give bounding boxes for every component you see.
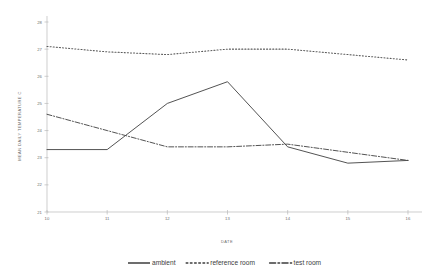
x-tick-label: 16 [406,216,411,221]
line-chart-svg: 2122232425262728 10111213141516 MEAN DAI… [0,0,428,280]
plot-series-group [47,46,408,163]
legend-label: reference room [210,259,255,266]
x-tick-label: 12 [165,216,170,221]
series-line-reference-room [47,46,408,60]
chart-legend: ambientreference roomtest room [128,259,322,266]
y-tick-label: 24 [37,128,42,133]
x-tick-label: 14 [285,216,290,221]
x-axis-title: DATE [221,239,233,244]
chart-figure: 2122232425262728 10111213141516 MEAN DAI… [0,0,428,280]
y-axis: 2122232425262728 [37,16,48,215]
y-axis-title: MEAN DAILY TEMPERATURE C [17,91,22,161]
x-axis: 10111213141516 [45,210,422,221]
legend-label: test room [294,259,322,266]
y-tick-label: 23 [37,155,42,160]
x-tick-label: 15 [345,216,350,221]
y-tick-label: 22 [37,182,42,187]
y-tick-label: 28 [37,20,42,25]
x-tick-label: 13 [225,216,230,221]
x-tick-label: 11 [105,216,110,221]
x-tick-label: 10 [45,216,50,221]
y-tick-label: 21 [37,210,42,215]
y-tick-label: 25 [37,101,42,106]
y-tick-label: 27 [37,47,42,52]
series-line-test-room [47,114,408,160]
series-line-ambient [47,82,408,163]
legend-label: ambient [152,259,176,266]
y-tick-label: 26 [37,74,42,79]
